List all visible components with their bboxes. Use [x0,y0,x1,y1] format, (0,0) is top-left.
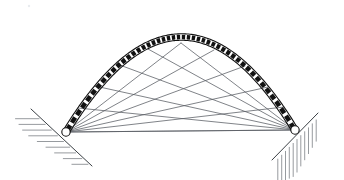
stray-speck [28,5,30,7]
right-pin-support-icon [291,126,299,134]
arch-bridge-diagram [0,0,344,180]
canvas-background [0,0,344,180]
diagram-root [0,0,344,180]
arch-voussoir-block [177,35,180,40]
left-pin-support-icon [62,128,70,136]
arch-voussoir-block [172,35,176,40]
arch-voussoir-block [182,35,185,40]
arch-voussoir-block [187,35,191,40]
